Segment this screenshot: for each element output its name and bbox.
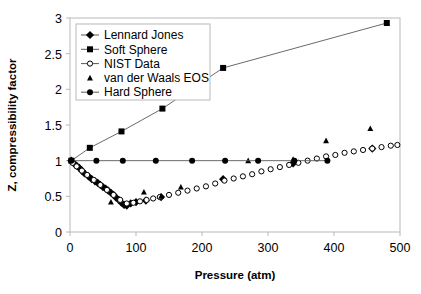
data-point <box>141 189 147 195</box>
data-point <box>194 186 199 191</box>
data-point <box>151 196 156 201</box>
data-point <box>323 138 329 144</box>
legend-label: Lennard Jones <box>104 28 183 42</box>
y-tick-label: 3 <box>55 12 62 26</box>
series-van-der-waals-eos <box>108 125 373 204</box>
legend-label: Soft Sphere <box>104 43 168 57</box>
data-point <box>118 197 123 202</box>
legend-label: NIST Data <box>104 57 160 71</box>
legend-label: van der Waals EOS <box>104 71 209 85</box>
data-point <box>287 162 292 167</box>
data-point <box>395 142 400 147</box>
data-point <box>74 164 79 169</box>
data-point <box>153 158 159 164</box>
legend-marker-square-icon <box>87 46 93 52</box>
data-point <box>370 146 375 151</box>
data-point <box>240 174 245 179</box>
legend-marker-filled-circle-icon <box>87 89 93 95</box>
data-point <box>231 176 236 181</box>
legend-item-van-der-waals-eos[interactable]: van der Waals EOS <box>87 71 209 85</box>
data-point <box>220 65 226 71</box>
data-point <box>324 158 330 164</box>
data-point <box>85 172 90 177</box>
data-point <box>213 181 218 186</box>
y-tick-label: 0.5 <box>45 190 62 204</box>
data-point <box>166 192 171 197</box>
data-point <box>104 187 109 192</box>
data-point <box>203 184 208 189</box>
data-point <box>291 158 297 164</box>
data-point <box>178 184 184 190</box>
x-tick-label: 200 <box>192 241 213 255</box>
data-point <box>388 143 393 148</box>
data-point <box>277 164 282 169</box>
data-point <box>131 200 136 205</box>
data-point <box>91 177 96 182</box>
y-axis-title: Z, compressibility factor <box>6 58 18 191</box>
data-point <box>137 199 142 204</box>
x-tick-label: 500 <box>390 241 411 255</box>
x-tick-label: 300 <box>258 241 279 255</box>
x-tick-label: 100 <box>126 241 147 255</box>
data-point <box>93 158 99 164</box>
data-point <box>342 150 347 155</box>
data-point <box>87 145 93 151</box>
data-point <box>185 188 190 193</box>
data-point <box>379 145 384 150</box>
compressibility-factor-chart: 010020030040050000.511.522.53Pressure (a… <box>0 0 421 294</box>
data-point <box>159 106 165 112</box>
y-tick-label: 1.5 <box>45 119 62 133</box>
x-tick-label: 400 <box>324 241 345 255</box>
x-axis-title: Pressure (atm) <box>195 269 276 281</box>
data-point <box>120 158 126 164</box>
data-point <box>144 197 149 202</box>
data-point <box>111 192 116 197</box>
chart-legend: Lennard JonesSoft SphereNIST Datavan der… <box>76 24 210 100</box>
legend-label: Hard Sphere <box>104 85 172 99</box>
data-point <box>176 190 181 195</box>
y-tick-label: 2 <box>55 83 62 97</box>
data-point <box>79 168 84 173</box>
data-point <box>259 169 264 174</box>
data-point <box>222 178 227 183</box>
data-point <box>384 20 390 26</box>
data-point <box>268 167 273 172</box>
data-point <box>118 128 124 134</box>
data-point <box>250 172 255 177</box>
y-tick-label: 2.5 <box>45 48 62 62</box>
data-point <box>108 199 114 205</box>
data-point <box>98 182 103 187</box>
data-point <box>222 158 228 164</box>
legend-marker-open-circle-icon <box>87 61 92 66</box>
data-point <box>189 158 195 164</box>
data-point <box>360 147 365 152</box>
y-tick-label: 0 <box>55 226 62 240</box>
data-point <box>333 152 338 157</box>
data-point <box>124 201 129 206</box>
y-tick-label: 1 <box>55 155 62 169</box>
data-point <box>68 158 74 164</box>
series-lennard-jones <box>67 144 376 209</box>
chart-container: 010020030040050000.511.522.53Pressure (a… <box>0 0 421 294</box>
x-tick-label: 0 <box>67 241 74 255</box>
data-point <box>367 125 373 131</box>
data-point <box>255 158 261 164</box>
data-point <box>351 149 356 154</box>
